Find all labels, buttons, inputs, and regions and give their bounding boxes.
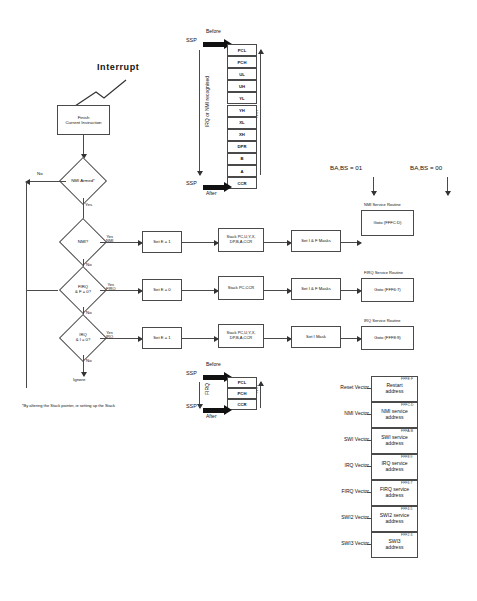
irqnmi-direction-arrow — [199, 50, 200, 175]
footnote: *By altering the Stack pointer, ie setti… — [22, 404, 115, 408]
service-box-firq: Goto (FFF6:7) — [361, 278, 414, 302]
vector-name-reset-vector: Reset Vector — [340, 385, 369, 391]
stack-box-label: Stack PC,U,Y,X, DP,B,A,CCR — [227, 331, 256, 340]
flow-arrow-finish-to-nmiarmed — [83, 135, 84, 158]
flow-arrow-setE-to-stack-firq — [182, 290, 218, 291]
page-title: Interrupt — [97, 63, 139, 73]
irqnmi-before-label: Before — [206, 29, 221, 35]
stack-cell-pcl: PCL — [227, 44, 257, 56]
vector-name-swi2-vector: SWI2 Vector — [341, 515, 369, 521]
ignore-label: Ignore — [73, 378, 85, 383]
service-goto-label: Goto (FFF8:9) — [374, 336, 401, 341]
flow-line-no-bypass-vertical — [26, 181, 27, 388]
set-e-box-firq: Set E = 0 — [142, 279, 182, 301]
vector-content-label: Restart address — [386, 383, 404, 395]
vector-address-label: FFFE:F — [401, 377, 413, 381]
mask-box-label: Set I & F Masks — [301, 239, 331, 244]
vector-address-label: FFFC:D — [401, 403, 414, 407]
vector-address-label: FFFA:B — [401, 429, 413, 433]
mask-box-nmi: Set I & F Masks — [291, 230, 341, 252]
irq-no-label: No — [86, 359, 92, 364]
firq-stack-cell-pcl: PCL — [227, 377, 257, 388]
stack-box-label: Stack PC,CCR — [228, 286, 254, 291]
bus-state-label-00: BA,BS = 00 — [410, 165, 442, 172]
set-e-box-irq: Set E = 1 — [142, 327, 182, 349]
vector-name-firq-vector: FIRQ Vector — [341, 489, 369, 495]
flow-arrow-setE-to-stack-irq — [182, 338, 218, 339]
irqnmi-ssp-after-label: SSP — [186, 181, 197, 187]
flow-arrow-mask-to-service-firq — [341, 290, 361, 291]
stack-box-nmi: Stack PC,U,Y,X, DP,B,A,CCR — [218, 228, 264, 252]
firq-ssp-before-arrow — [203, 375, 225, 380]
flow-arrow-irq-yes — [100, 338, 142, 339]
mask-box-label: Set I Mask — [306, 335, 326, 340]
flow-arrow-irq-to-ignore — [83, 355, 84, 376]
vector-content-label: FIRQ service address — [380, 487, 409, 499]
firq-before-label: Before — [206, 362, 221, 368]
flow-line-nmiarmed-no — [26, 181, 66, 182]
flow-arrow-mask-to-service-irq — [341, 338, 361, 339]
irqnmi-ssp-before-label: SSP — [186, 38, 197, 44]
service-title-firq: FIRQ Service Routine — [364, 271, 403, 275]
flow-line-no-bypass-join-firq — [26, 290, 58, 291]
mask-box-irq: Set I Mask — [291, 326, 341, 348]
irqnmi-after-label: After — [206, 191, 217, 197]
flow-arrow-firq-yes — [100, 290, 142, 291]
stack-cell-yl: YL — [227, 92, 257, 104]
service-goto-label: Goto (FFF6:7) — [374, 288, 401, 293]
vector-name-irq-vector: IRQ Vector — [345, 463, 369, 469]
bus-state-arrow-00 — [447, 177, 448, 195]
nmi-no-label: No — [86, 263, 92, 268]
vector-address-label: FFF8:9 — [401, 455, 413, 459]
vector-name-swi-vector: SWI Vector — [344, 437, 369, 443]
firq-after-label: After — [206, 414, 217, 420]
finish-instruction-box: Finish Current Instruction — [57, 105, 110, 135]
flow-arrow-stack-to-mask-nmi — [264, 242, 291, 243]
bus-state-arrow-01 — [373, 177, 374, 195]
firq-rti-arrow — [260, 382, 261, 408]
flow-arrow-stack-to-mask-firq — [264, 290, 291, 291]
service-title-irq: IRQ Service Routine — [364, 319, 400, 323]
vector-content-label: IRQ service address — [381, 461, 407, 473]
set-e-box-nmi: Set E = 1 — [142, 231, 182, 253]
stack-cell-dpr: DPR — [227, 141, 257, 153]
nmi-armed-yes-label: Yes — [85, 203, 92, 208]
set-e-label: Set E = 1 — [153, 336, 170, 341]
stack-cell-b: B — [227, 153, 257, 165]
set-e-label: Set E = 1 — [153, 240, 170, 245]
stack-cell-uh: UH — [227, 80, 257, 92]
vector-address-label: FFF4:5 — [401, 507, 413, 511]
service-title-nmi: NMI Service Routine — [364, 203, 401, 207]
vector-content-label: SWI service address — [381, 435, 408, 447]
stack-cell-xl: XL — [227, 117, 257, 129]
stack-cell-xh: XH — [227, 129, 257, 141]
irq-decision-label: IRQ & I = 0? — [76, 333, 91, 342]
stack-cell-pch: PCH — [227, 56, 257, 68]
irqnmi-rti-arrow — [260, 50, 261, 175]
vector-address-label: FFF2:3 — [401, 533, 413, 537]
firq-ssp-before-label: SSP — [186, 371, 197, 377]
flow-arrow-mask-to-service-nmi — [341, 242, 361, 243]
vector-address-label: FFF6:7 — [401, 481, 413, 485]
bus-state-label-01: BA,BS = 01 — [330, 165, 362, 172]
service-box-irq: Goto (FFF8:9) — [361, 326, 414, 350]
vector-content-label: NMI service address — [381, 409, 407, 421]
vector-content-label: SWI3 address — [386, 539, 404, 551]
nmi-armed-label: NMI Armed* — [71, 179, 95, 184]
stack-box-firq: Stack PC,CCR — [218, 276, 264, 300]
stack-cell-ul: UL — [227, 68, 257, 80]
service-box-nmi: Goto (FFFC:D) — [361, 210, 414, 236]
stack-cell-a: A — [227, 165, 257, 177]
flow-arrow-setE-to-stack-nmi — [182, 242, 218, 243]
set-e-label: Set E = 0 — [153, 288, 170, 293]
mask-box-label: Set I & F Masks — [301, 287, 331, 292]
vector-content-label: SWI2 service address — [380, 513, 409, 525]
stack-box-label: Stack PC,U,Y,X, DP,B,A,CCR — [227, 235, 256, 244]
firq-decision-label: FIRQ & F = 0? — [75, 285, 91, 294]
irqnmi-side-label: IRQ or NMI recognised — [205, 76, 211, 127]
vector-name-swi3-vector: SWI3 Vector — [341, 541, 369, 547]
mask-box-firq: Set I & F Masks — [291, 278, 341, 300]
nmi-armed-no-label: No — [37, 172, 43, 177]
firq-no-label: No — [86, 311, 92, 316]
firq-direction-arrow — [199, 382, 200, 408]
